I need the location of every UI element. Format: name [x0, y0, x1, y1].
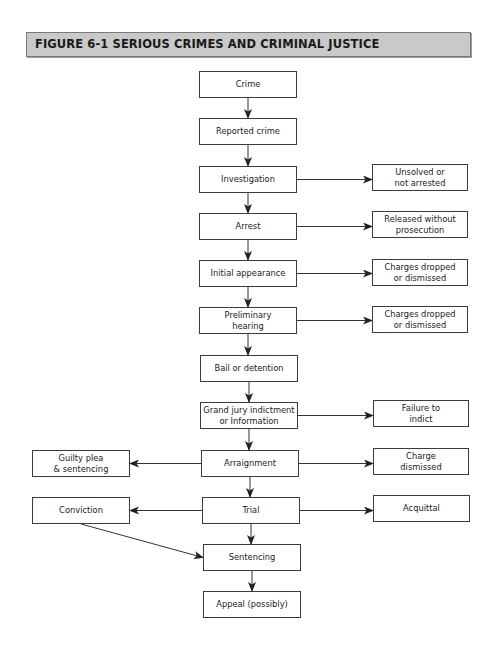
node-grand-jury-indictment: Grand jury indictment or Information	[200, 402, 298, 429]
node-acquittal: Acquittal	[373, 495, 470, 522]
node-appeal: Appeal (possibly)	[203, 591, 301, 618]
node-arraignment: Arraignment	[201, 450, 299, 477]
node-guilty-plea-and-sentencing: Guilty plea & sentencing	[32, 450, 130, 477]
node-released-without-prosecution: Released without prosecution	[372, 211, 468, 238]
node-bail-or-detention: Bail or detention	[200, 355, 298, 382]
node-charges-dropped-2: Charges dropped or dismissed	[372, 306, 468, 333]
node-charge-dismissed: Charge dismissed	[373, 448, 469, 475]
node-unsolved-or-not-arrested: Unsolved or not arrested	[372, 164, 468, 191]
node-investigation: Investigation	[199, 166, 297, 193]
node-reported-crime: Reported crime	[199, 118, 297, 145]
node-preliminary-hearing: Preliminary hearing	[199, 307, 297, 334]
node-conviction: Conviction	[32, 497, 130, 524]
arrow-conviction-to-sentencing	[81, 524, 203, 558]
node-trial: Trial	[202, 497, 300, 524]
node-charges-dropped-1: Charges dropped or dismissed	[372, 259, 468, 286]
node-failure-to-indict: Failure to indict	[373, 400, 469, 427]
node-sentencing: Sentencing	[203, 544, 301, 571]
node-arrest: Arrest	[199, 213, 297, 240]
node-initial-appearance: Initial appearance	[199, 260, 297, 287]
node-crime: Crime	[199, 71, 297, 98]
